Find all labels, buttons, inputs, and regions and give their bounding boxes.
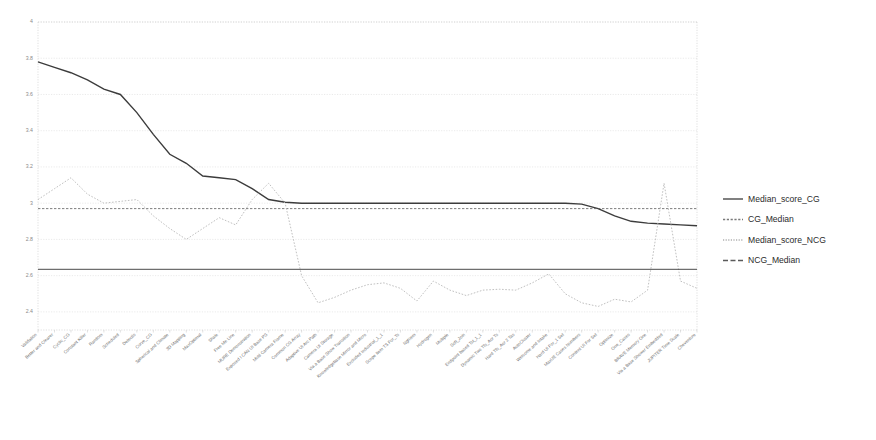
x-axis-tick-label: Scheduled — [101, 332, 120, 350]
y-axis-tick-label: 3.4 — [26, 127, 33, 133]
x-axis-tick-label: Shale — [207, 332, 219, 344]
series-line-median-score-ncg — [38, 178, 697, 307]
series-line-median-score-cg — [38, 62, 697, 226]
ytick-label-group: 2.42.62.833.23.43.63.84 — [26, 18, 33, 314]
grid-group — [38, 22, 697, 312]
y-axis-tick-label: 4 — [30, 18, 33, 24]
x-axis-tick-label: Hydrogen — [416, 332, 434, 349]
y-axis-tick-label: 3.6 — [26, 91, 33, 97]
legend-label[interactable]: Median_score_NCG — [748, 235, 826, 245]
y-axis-tick-label: 2.6 — [26, 272, 33, 278]
x-axis-tick-label: Hard Tfs_Aor 2 Tas — [484, 331, 516, 360]
legend-label[interactable]: CG_Median — [748, 214, 794, 224]
x-axis-tick-label: Content UI For Set — [567, 332, 598, 361]
x-axis-tick-label: Multiple — [435, 332, 450, 346]
x-axis-tick-label: Cheventure — [676, 332, 697, 351]
y-axis-tick-label: 3.8 — [26, 55, 33, 61]
x-axis-tick-label: Nghiem — [402, 332, 417, 346]
legend-label[interactable]: Median_score_CG — [748, 194, 820, 204]
xtick-label-group: ValidationBetter and ClearerCyclic_CGCon… — [20, 331, 697, 378]
legend-group: Median_score_CGCG_MedianMedian_score_NCG… — [723, 194, 826, 266]
line-chart: 2.42.62.833.23.43.63.84 ValidationBetter… — [0, 0, 876, 440]
y-axis-tick-label: 3.2 — [26, 163, 33, 169]
legend-label[interactable]: NCG_Median — [748, 255, 800, 265]
chart-container: 2.42.62.833.23.43.63.84 ValidationBetter… — [0, 0, 876, 440]
y-axis-tick-label: 2.8 — [26, 236, 33, 242]
axis-group — [38, 22, 697, 333]
y-axis-tick-label: 3 — [30, 200, 33, 206]
series-group — [38, 62, 697, 307]
y-axis-tick-label: 2.4 — [26, 308, 33, 314]
